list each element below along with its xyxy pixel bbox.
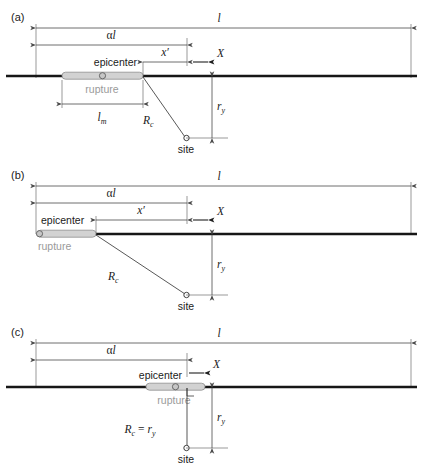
panel-c: (c) l αl X epicenter rupture Rc = ry sit… — [0, 315, 421, 472]
label-site-c: site — [178, 453, 195, 465]
label-rc-b: Rc — [107, 270, 119, 285]
label-epicenter-a: epicenter — [94, 56, 138, 68]
rupture-segment-b — [37, 230, 96, 237]
label-axis-x-c: X — [212, 358, 221, 370]
label-alpha-length-c: αl — [106, 344, 115, 356]
panel-a-label: (a) — [11, 11, 24, 23]
label-total-length-b: l — [217, 170, 220, 182]
label-site-a: site — [178, 143, 195, 155]
epicenter-marker-c — [172, 384, 178, 390]
epicenter-marker-a — [99, 73, 105, 79]
label-ry-c: ry — [217, 411, 225, 426]
label-epicenter-b: epicenter — [41, 214, 85, 226]
label-rc-eq-ry-c: Rc = ry — [124, 423, 156, 438]
label-epicenter-c: epicenter — [139, 369, 183, 381]
label-alpha-length-b: αl — [106, 187, 115, 199]
label-total-length-a: l — [217, 12, 220, 24]
label-axis-x-b: X — [216, 205, 225, 217]
epicenter-marker-b — [36, 231, 42, 237]
label-x-prime-b: x′ — [136, 204, 145, 216]
label-x-prime-a: x′ — [160, 46, 169, 58]
label-rupture-b: rupture — [38, 240, 71, 252]
panel-b-label: (b) — [11, 169, 24, 181]
label-ry-a: ry — [217, 100, 225, 115]
label-site-b: site — [178, 300, 195, 312]
label-rupture-length-a: lm — [98, 111, 107, 126]
label-ry-b: ry — [217, 258, 225, 273]
label-rupture-a: rupture — [85, 83, 118, 95]
panel-a: (a) l αl x′ X epicenter rupture lm — [0, 0, 421, 158]
panel-c-label: (c) — [11, 326, 24, 338]
ray-rc-b — [96, 235, 185, 294]
label-alpha-length-a: αl — [106, 29, 115, 41]
label-rc-a: Rc — [142, 114, 154, 129]
label-total-length-c: l — [217, 327, 220, 339]
panel-b: (b) l αl x′ X epicenter rupture Rc site — [0, 158, 421, 315]
label-rupture-c: rupture — [157, 394, 190, 406]
fault-rupture-figure: (a) l αl x′ X epicenter rupture lm — [0, 0, 421, 472]
label-axis-x-a: X — [216, 47, 225, 59]
